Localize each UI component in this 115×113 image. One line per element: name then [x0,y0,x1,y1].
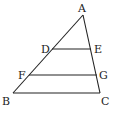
label-f: F [18,69,26,82]
label-c: C [101,95,109,108]
label-d: D [41,43,50,56]
label-e: E [94,43,102,56]
label-g: G [99,69,108,82]
triangle-diagram: A D E F G B C [0,0,115,113]
label-a: A [77,2,87,15]
label-b: B [2,95,10,108]
